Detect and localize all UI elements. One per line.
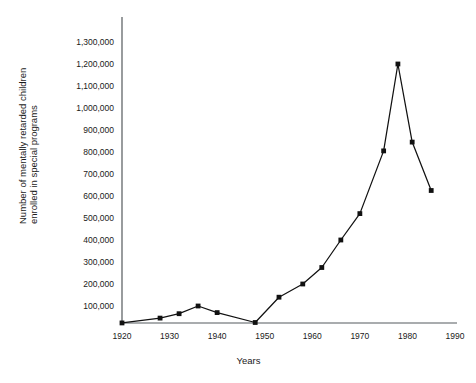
data-point-marker <box>120 321 125 326</box>
x-axis-title: Years <box>237 355 261 366</box>
x-axis-tick-label: 1930 <box>160 331 179 341</box>
data-point-marker <box>410 140 415 145</box>
data-point-marker <box>357 211 362 216</box>
data-point-marker <box>177 311 182 316</box>
axis-lines <box>122 17 457 323</box>
x-axis-tick-label: 1970 <box>350 331 369 341</box>
y-axis-tick-label: 300,000 <box>83 257 114 267</box>
x-axis-tick-label: 1990 <box>446 331 465 341</box>
data-point-marker <box>319 265 324 270</box>
y-axis-title: Number of mentally retarded childrenenro… <box>17 68 39 224</box>
data-point-marker <box>277 295 282 300</box>
x-axis-tick-label: 1920 <box>113 331 132 341</box>
data-series-line <box>122 64 431 323</box>
y-axis-tick-label: 100,000 <box>83 301 114 311</box>
y-axis-tick-label: 700,000 <box>83 169 114 179</box>
x-axis-tick-label: 1980 <box>398 331 417 341</box>
y-axis-tick-label: 900,000 <box>83 125 114 135</box>
y-axis-tick-label: 1,000,000 <box>76 103 114 113</box>
y-axis-tick-label: 500,000 <box>83 213 114 223</box>
y-axis-title-line-2: enrolled in special programs <box>28 105 39 224</box>
data-point-marker <box>215 310 220 315</box>
y-axis-tick-label: 800,000 <box>83 147 114 157</box>
y-axis-tick-label: 1,100,000 <box>76 81 114 91</box>
x-axis-tick-label: 1950 <box>255 331 274 341</box>
data-point-marker <box>396 62 401 67</box>
data-point-marker <box>429 188 434 193</box>
y-axis-tick-label: 1,300,000 <box>76 37 114 47</box>
data-point-marker <box>300 282 305 287</box>
data-point-marker <box>381 149 386 154</box>
x-axis-tick-label: 1960 <box>303 331 322 341</box>
y-axis-tick-label: 200,000 <box>83 279 114 289</box>
data-point-marker <box>338 238 343 243</box>
y-axis-tick-label: 1,200,000 <box>76 59 114 69</box>
x-axis-tick-label: 1940 <box>208 331 227 341</box>
y-axis-tick-label: 400,000 <box>83 235 114 245</box>
y-axis-tick-label: 600,000 <box>83 191 114 201</box>
data-point-marker <box>196 304 201 309</box>
data-point-marker <box>158 316 163 321</box>
chart-figure: 100,000200,000300,000400,000500,000600,0… <box>0 0 476 383</box>
data-point-marker <box>253 320 258 325</box>
y-axis-title-line-1: Number of mentally retarded children <box>17 68 28 224</box>
chart-plot-area: 100,000200,000300,000400,000500,000600,0… <box>0 0 476 383</box>
